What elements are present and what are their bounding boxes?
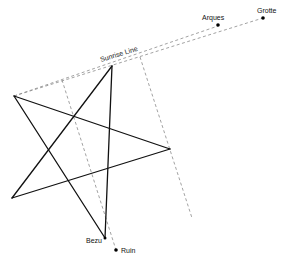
pentagram-diagram: Sunrise Line Arques Grotte Bezu Ruin	[0, 0, 288, 262]
bezu-label: Bezu	[86, 237, 102, 244]
grotte-label: Grotte	[257, 7, 277, 14]
star-edge	[12, 149, 170, 198]
ruin-label: Ruin	[121, 247, 136, 254]
grotte-point	[261, 16, 265, 20]
sunrise-line-lower	[14, 26, 218, 96]
star-edge	[105, 66, 112, 238]
dashed-guide-right	[140, 57, 192, 218]
bezu-point	[104, 237, 107, 240]
star-edge	[12, 66, 112, 198]
arques-point	[216, 23, 220, 27]
star-edge	[14, 96, 105, 238]
sunrise-line-upper	[14, 18, 263, 96]
arques-label: Arques	[202, 14, 225, 22]
star-edge	[14, 96, 170, 149]
ruin-point	[114, 248, 118, 252]
